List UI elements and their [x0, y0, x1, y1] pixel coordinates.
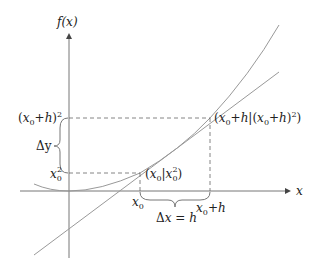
y-axis-label: f(x) [56, 15, 78, 29]
point-lower-label: (x0|x02) [145, 165, 182, 183]
diagram-canvas: f(x) x (x0+h)2 x02 Δy x0 x0+h Δx = h (x0… [0, 0, 320, 267]
point-upper-label: (x0+h|(x0+h)2) [214, 110, 301, 127]
secant-line [34, 72, 279, 255]
delta-x-label: Δx = h [156, 211, 197, 225]
y-tick-lower: x02 [50, 165, 62, 183]
x-axis-label: x [296, 184, 303, 198]
y-tick-upper: (x0+h)2 [18, 110, 62, 127]
delta-y-label: Δy [36, 139, 52, 153]
x-tick-right: x0+h [196, 201, 226, 217]
parabola-curve [34, 25, 279, 191]
